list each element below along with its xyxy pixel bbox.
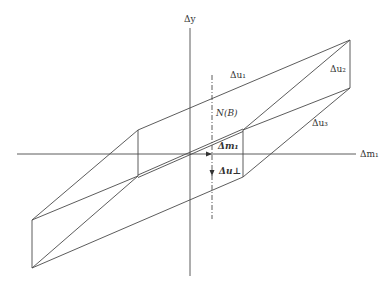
edge-inner-diagonal-upper	[243, 40, 350, 130]
edge-bottom-long	[32, 177, 243, 268]
y-axis-label: Δy	[184, 14, 196, 24]
du-perp-label: Δu⊥	[219, 166, 241, 176]
dm1-vector-label: Δm₁	[218, 141, 238, 151]
dm1-arrow-icon	[206, 152, 212, 157]
edge-lower-left-diagonal	[32, 176, 138, 268]
parallelepiped-diagram	[0, 0, 390, 289]
du-perp-arrow-icon	[210, 170, 215, 176]
edge-du3	[243, 88, 350, 177]
null-space-label: N(B)	[216, 108, 238, 118]
edge-du1-top	[138, 40, 350, 130]
du2-label: Δu₂	[330, 64, 346, 74]
x-axis-label: Δm₁	[360, 149, 379, 159]
du3-label: Δu₃	[312, 118, 328, 128]
edge-upper-left-slant	[32, 130, 138, 220]
edge-du2-mid	[243, 88, 350, 130]
du1-label: Δu₁	[230, 70, 246, 80]
edge-left-mid	[32, 176, 138, 220]
